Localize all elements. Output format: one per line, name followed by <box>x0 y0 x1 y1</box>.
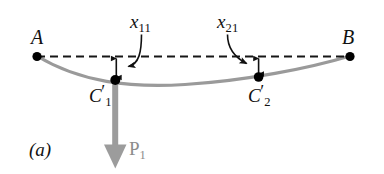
label-deflection-x21: x21 <box>217 12 238 34</box>
node-support-b <box>345 52 354 61</box>
label-panel-letter: (a) <box>29 140 51 159</box>
figure-background <box>0 0 384 174</box>
label-c2-subscript: 2 <box>264 95 270 109</box>
figure-panel-a: A B x11 x21 C′1 C′2 P1 (a) <box>0 0 384 174</box>
label-station-c1: C′1 <box>89 83 112 108</box>
figure-canvas <box>0 0 384 174</box>
node-support-a <box>32 52 41 61</box>
label-station-c2: C′2 <box>248 83 271 108</box>
node-station-c2 <box>254 72 264 82</box>
label-c2-main: C <box>248 85 261 106</box>
label-p1-main: P <box>129 138 140 159</box>
label-c1-subscript: 1 <box>105 95 111 109</box>
label-c1-main: C <box>89 85 102 106</box>
label-x21-subscript: 21 <box>225 21 238 35</box>
label-support-a: A <box>31 27 43 47</box>
node-station-c1 <box>110 75 120 85</box>
label-p1-subscript: 1 <box>140 148 146 162</box>
label-x11-subscript: 11 <box>138 21 150 35</box>
label-support-b: B <box>342 27 354 47</box>
label-force-p1: P1 <box>129 139 146 161</box>
label-deflection-x11: x11 <box>130 12 151 34</box>
